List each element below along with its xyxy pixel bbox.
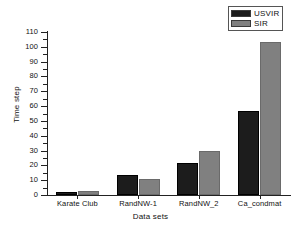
- y-tick-major: [41, 165, 47, 166]
- y-axis-line: [47, 31, 48, 196]
- y-tick-minor: [43, 84, 47, 85]
- x-tick-label: RandNW-1: [108, 199, 169, 208]
- y-tick-major: [41, 195, 47, 196]
- y-tick-minor: [43, 114, 47, 115]
- bar-usvir-1: [117, 175, 138, 195]
- x-axis-line: [47, 195, 291, 196]
- y-tick-major: [41, 47, 47, 48]
- x-tick: [77, 195, 78, 199]
- y-tick-major: [41, 91, 47, 92]
- bar-sir-1: [139, 179, 160, 195]
- legend-label-sir: SIR: [254, 20, 268, 28]
- y-tick-minor: [43, 188, 47, 189]
- y-tick-major: [41, 151, 47, 152]
- legend-label-usvir: USVIR: [254, 10, 279, 18]
- y-tick-major: [41, 62, 47, 63]
- y-tick-label: 10: [12, 176, 38, 184]
- legend-item-usvir: USVIR: [231, 9, 279, 18]
- bar-sir-2: [199, 151, 220, 195]
- x-tick-label: Ca_condmat: [229, 199, 290, 208]
- bar-usvir-3: [238, 111, 259, 195]
- y-tick-minor: [43, 158, 47, 159]
- y-tick-minor: [43, 143, 47, 144]
- y-tick-label: 30: [12, 147, 38, 155]
- x-axis-title: Data sets: [0, 212, 301, 221]
- y-axis-title: Time step: [12, 75, 21, 135]
- x-tick: [260, 195, 261, 199]
- bars-layer: [47, 32, 291, 195]
- y-tick-minor: [43, 99, 47, 100]
- y-tick-minor: [43, 173, 47, 174]
- y-tick-label: 0: [12, 191, 38, 199]
- legend-item-sir: SIR: [231, 19, 279, 28]
- x-tick: [199, 195, 200, 199]
- y-tick-minor: [43, 69, 47, 70]
- y-tick-minor: [43, 128, 47, 129]
- y-tick-minor: [43, 39, 47, 40]
- y-tick-major: [41, 121, 47, 122]
- x-tick-label: Karate Club: [47, 199, 108, 208]
- bar-chart-figure: USVIR SIR 0102030405060708090100110 Kara…: [0, 0, 301, 236]
- y-tick-major: [41, 106, 47, 107]
- y-tick-major: [41, 180, 47, 181]
- y-tick-major: [41, 32, 47, 33]
- x-tick: [138, 195, 139, 199]
- bar-usvir-2: [177, 163, 198, 195]
- y-tick-label: 90: [12, 58, 38, 66]
- legend-swatch-usvir: [231, 10, 251, 17]
- bar-sir-3: [260, 42, 281, 195]
- chart-legend: USVIR SIR: [228, 6, 283, 31]
- y-tick-label: 100: [12, 43, 38, 51]
- y-tick-label: 20: [12, 161, 38, 169]
- y-tick-label: 110: [12, 28, 38, 36]
- x-tick-label: RandNW_2: [169, 199, 230, 208]
- legend-swatch-sir: [231, 20, 251, 27]
- y-tick-major: [41, 136, 47, 137]
- y-tick-major: [41, 76, 47, 77]
- y-tick-minor: [43, 54, 47, 55]
